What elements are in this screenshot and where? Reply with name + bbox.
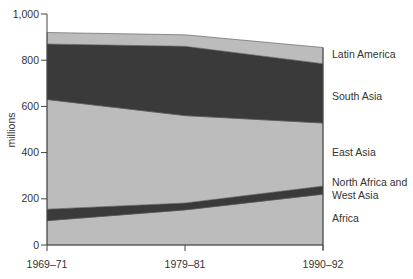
y-tick-label: 0 — [33, 239, 39, 251]
y-axis-ticks: 02004006008001,000 — [13, 8, 47, 251]
y-tick-label: 1,000 — [13, 8, 39, 20]
series-label: North Africa and — [332, 176, 407, 188]
stacked-area-chart: 02004006008001,000 1969–711979–811990–92… — [0, 0, 413, 279]
y-axis-title: millions — [5, 112, 17, 147]
series-label: Latin America — [332, 48, 396, 60]
area-layers — [47, 33, 323, 246]
series-label: West Asia — [332, 189, 379, 201]
x-tick-label: 1990–92 — [303, 258, 344, 270]
series-labels: Latin AmericaSouth AsiaEast AsiaNorth Af… — [332, 48, 407, 224]
x-tick-label: 1979–81 — [165, 258, 206, 270]
y-tick-label: 400 — [21, 146, 39, 158]
y-tick-label: 200 — [21, 192, 39, 204]
y-tick-label: 800 — [21, 54, 39, 66]
series-label: Africa — [332, 212, 359, 224]
series-label: East Asia — [332, 146, 376, 158]
x-tick-label: 1969–71 — [27, 258, 68, 270]
y-tick-label: 600 — [21, 100, 39, 112]
series-label: South Asia — [332, 90, 382, 102]
x-axis-ticks: 1969–711979–811990–92 — [27, 245, 344, 270]
